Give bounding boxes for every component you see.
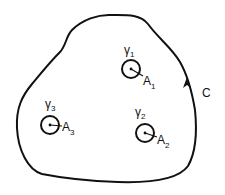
circle-gamma-3: γ3 A3 bbox=[41, 97, 75, 137]
svg-text:A3: A3 bbox=[62, 120, 75, 137]
circle-gamma-2: γ2 A2 bbox=[135, 105, 170, 150]
contour-diagram: C γ1 A1 γ2 A2 γ3 A3 bbox=[0, 0, 225, 195]
svg-text:A2: A2 bbox=[157, 133, 170, 150]
direction-arrow-icon bbox=[183, 77, 191, 88]
contour-label: C bbox=[202, 86, 211, 100]
svg-text:γ3: γ3 bbox=[45, 97, 56, 113]
svg-text:γ1: γ1 bbox=[124, 43, 135, 59]
svg-text:γ2: γ2 bbox=[135, 105, 146, 121]
circle-gamma-1: γ1 A1 bbox=[122, 43, 156, 91]
svg-text:A1: A1 bbox=[143, 74, 156, 91]
contour-c bbox=[17, 15, 196, 182]
